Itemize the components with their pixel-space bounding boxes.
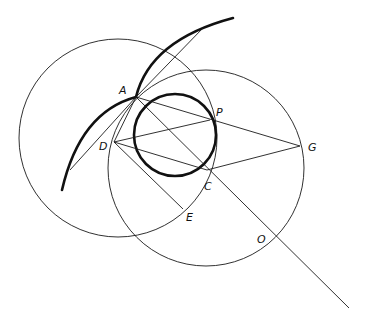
line-c-g xyxy=(207,146,300,170)
label-p: P xyxy=(216,106,223,119)
chord-a-upper xyxy=(136,28,203,97)
label-g: G xyxy=(308,141,317,154)
left-circle xyxy=(19,39,217,237)
label-d: D xyxy=(99,140,107,153)
chord-a-lower xyxy=(70,97,136,170)
upper-thick-arc xyxy=(136,18,233,97)
label-o: O xyxy=(257,233,266,246)
label-e: E xyxy=(186,211,193,224)
geometric-diagram: A P D G C E O xyxy=(0,0,366,322)
label-a: A xyxy=(118,84,127,97)
right-circle xyxy=(108,70,304,266)
label-c: C xyxy=(204,180,212,193)
